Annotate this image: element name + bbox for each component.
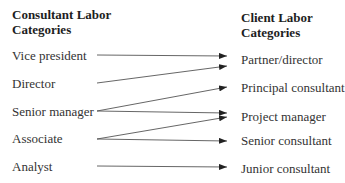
mapping-arrow: [97, 55, 227, 56]
mapping-arrow: [97, 166, 227, 167]
mapping-arrow: [97, 87, 227, 111]
mapping-arrow: [97, 139, 227, 141]
mapping-arrow: [97, 66, 227, 83]
mapping-arrow: [97, 111, 227, 113]
mapping-arrow: [97, 117, 227, 139]
